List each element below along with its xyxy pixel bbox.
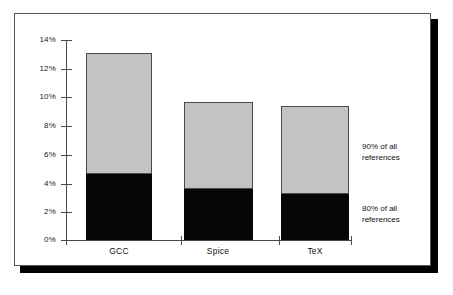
- x-tick-gcc-spice: [181, 236, 182, 245]
- y-tick-label-6: 6%: [44, 150, 56, 159]
- bar-gcc-upper-segment: [86, 53, 152, 174]
- y-tick-label-10: 10%: [39, 92, 56, 101]
- y-tick-label-14: 14%: [39, 35, 56, 44]
- bar-gcc[interactable]: [86, 53, 152, 240]
- y-axis-line: [66, 40, 67, 241]
- annotation-90-percent-line1: 90% of all: [362, 142, 400, 153]
- annotation-80-percent: 80% of all references: [362, 204, 400, 225]
- bar-spice[interactable]: [184, 102, 253, 240]
- x-label-spice: Spice: [207, 246, 229, 256]
- annotation-90-percent-line2: references: [362, 153, 400, 164]
- y-tick-8: 8%: [61, 126, 72, 127]
- bar-gcc-lower-segment: [86, 174, 152, 240]
- y-tick-12: 12%: [61, 69, 72, 70]
- x-tick-start: [66, 236, 67, 245]
- annotation-90-percent: 90% of all references: [362, 142, 400, 163]
- chart-frame: 14% 12% 10% 8% 6% 4% 2% 0%: [14, 13, 431, 266]
- y-tick-2: 2%: [61, 212, 72, 213]
- y-tick-10: 10%: [61, 97, 72, 98]
- y-tick-4: 4%: [61, 184, 72, 185]
- chart-figure: 14% 12% 10% 8% 6% 4% 2% 0%: [0, 0, 453, 295]
- y-tick-label-4: 4%: [44, 179, 56, 188]
- y-tick-label-2: 2%: [44, 207, 56, 216]
- y-tick-label-12: 12%: [39, 64, 56, 73]
- bar-spice-upper-segment: [184, 102, 253, 189]
- y-tick-6: 6%: [61, 155, 72, 156]
- x-label-tex: TeX: [307, 246, 322, 256]
- y-tick-label-8: 8%: [44, 121, 56, 130]
- x-tick-spice-tex: [279, 236, 280, 245]
- x-tick-end: [351, 236, 352, 245]
- y-tick-14: 14%: [61, 40, 72, 41]
- bar-tex[interactable]: [281, 106, 349, 240]
- plot-area: 14% 12% 10% 8% 6% 4% 2% 0%: [15, 14, 430, 265]
- annotation-80-percent-line1: 80% of all: [362, 204, 400, 215]
- bar-spice-lower-segment: [184, 189, 253, 240]
- bar-tex-upper-segment: [281, 106, 349, 194]
- bar-tex-lower-segment: [281, 194, 349, 240]
- x-label-gcc: GCC: [109, 246, 129, 256]
- y-tick-label-0: 0%: [44, 235, 56, 244]
- annotation-80-percent-line2: references: [362, 215, 400, 226]
- x-axis-line: [66, 240, 351, 241]
